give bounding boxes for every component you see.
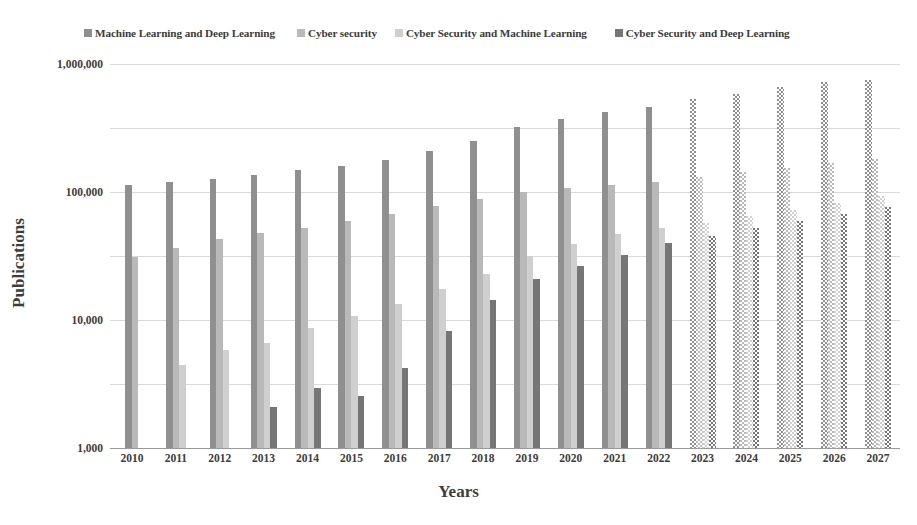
bar-group (593, 64, 637, 448)
x-axis-tick-label: 2010 (110, 452, 154, 472)
bar[interactable] (270, 407, 277, 448)
x-axis-tick-label: 2025 (768, 452, 812, 472)
legend-item[interactable]: Machine Learning and Deep Learning (84, 27, 275, 39)
x-axis-tick-label: 2011 (154, 452, 198, 472)
legend-item-label: Cyber Security and Deep Learning (626, 27, 790, 39)
bar-group (154, 64, 198, 448)
x-axis-tick-label: 2023 (681, 452, 725, 472)
bar[interactable] (885, 207, 892, 448)
bar-group (373, 64, 417, 448)
x-axis-tick-label: 2026 (812, 452, 856, 472)
bar[interactable] (621, 255, 628, 448)
bar-group (637, 64, 681, 448)
legend-item[interactable]: Cyber Security and Deep Learning (615, 27, 790, 39)
bar[interactable] (841, 214, 848, 448)
x-axis-tick-label: 2013 (242, 452, 286, 472)
bar[interactable] (490, 300, 497, 448)
bar[interactable] (402, 368, 409, 448)
bar-group (461, 64, 505, 448)
bar-group (549, 64, 593, 448)
bar[interactable] (533, 279, 540, 448)
x-axis-tick-label: 2022 (637, 452, 681, 472)
x-axis-title: Years (0, 482, 917, 502)
bar-group (417, 64, 461, 448)
legend-item[interactable]: Cyber Security and Machine Learning (395, 27, 587, 39)
bar[interactable] (179, 365, 186, 448)
y-axis-title-text: Publications (9, 218, 29, 308)
x-axis-tick-labels: 2010201120122013201420152016201720182019… (110, 452, 900, 472)
chart-legend: Machine Learning and Deep LearningCyber … (84, 24, 874, 42)
y-axis-tick-label: 1,000 (77, 442, 103, 454)
legend-item-label: Machine Learning and Deep Learning (95, 27, 275, 39)
bar[interactable] (314, 388, 321, 448)
x-axis-tick-label: 2015 (329, 452, 373, 472)
bar[interactable] (223, 350, 230, 448)
y-axis-tick-label: 1,000,000 (57, 58, 103, 70)
legend-swatch-icon (395, 29, 403, 37)
plot-area: 1101001,00010,000100,0001,000,000 (110, 64, 900, 448)
bar-group (681, 64, 725, 448)
bar-group (286, 64, 330, 448)
x-axis-tick-label: 2017 (417, 452, 461, 472)
y-axis-tick-label: 100,000 (66, 186, 103, 198)
bar-group (856, 64, 900, 448)
x-axis-tick-label: 2014 (286, 452, 330, 472)
bar[interactable] (665, 243, 672, 448)
bar-group (198, 64, 242, 448)
legend-swatch-icon (297, 29, 305, 37)
legend-swatch-icon (84, 29, 92, 37)
x-axis-tick-label: 2024 (724, 452, 768, 472)
x-axis-tick-label: 2016 (373, 452, 417, 472)
bar-groups (110, 64, 900, 448)
x-axis-tick-label: 2027 (856, 452, 900, 472)
bar[interactable] (753, 228, 760, 448)
x-axis-tick-label: 2019 (505, 452, 549, 472)
legend-swatch-icon (615, 29, 623, 37)
x-axis-tick-label: 2021 (593, 452, 637, 472)
chart-figure: Machine Learning and Deep LearningCyber … (0, 0, 917, 525)
bar-group (724, 64, 768, 448)
x-axis-tick-label: 2020 (549, 452, 593, 472)
x-axis-line: 1 (110, 448, 900, 449)
x-axis-tick-label: 2012 (198, 452, 242, 472)
bar[interactable] (577, 266, 584, 448)
legend-item-label: Cyber Security and Machine Learning (406, 27, 587, 39)
bar[interactable] (358, 396, 365, 448)
bar[interactable] (132, 257, 139, 448)
legend-item[interactable]: Cyber security (297, 27, 377, 39)
x-axis-tick-label: 2018 (461, 452, 505, 472)
bar-group (110, 64, 154, 448)
bar[interactable] (709, 236, 716, 448)
bar[interactable] (797, 221, 804, 448)
bar-group (329, 64, 373, 448)
bar-group (242, 64, 286, 448)
y-axis-title: Publications (4, 0, 34, 525)
legend-item-label: Cyber security (308, 27, 377, 39)
bar-group (812, 64, 856, 448)
bar-group (768, 64, 812, 448)
bar-group (505, 64, 549, 448)
bar[interactable] (446, 331, 453, 448)
y-axis-tick-label: 10,000 (71, 314, 103, 326)
